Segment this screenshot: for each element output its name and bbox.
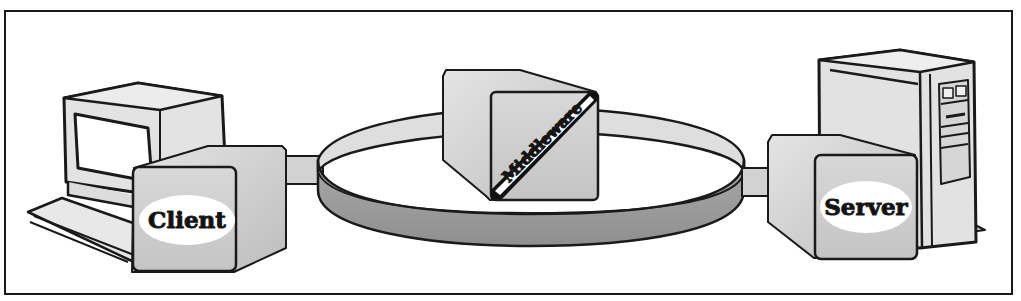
client-box: Client — [132, 146, 286, 272]
server-box: Server — [768, 135, 917, 259]
server-label: Server — [824, 193, 908, 220]
client-middleware-server-diagram: Client Middleware Se — [0, 0, 1021, 301]
middleware-box: Middleware — [443, 70, 598, 200]
client-label: Client — [148, 206, 226, 233]
